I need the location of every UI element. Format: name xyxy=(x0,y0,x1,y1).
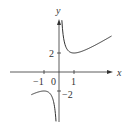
tick-label-neg1: −1 xyxy=(33,76,44,87)
tick-label-1: 1 xyxy=(71,76,76,87)
y-axis-arrow-icon xyxy=(57,19,61,25)
function-graph: x y −1 0 1 2 −2 xyxy=(0,0,133,126)
curve-right-branch xyxy=(62,20,112,53)
tick-label-neg2: −2 xyxy=(62,89,73,100)
x-axis-arrow-icon xyxy=(107,70,113,74)
tick-label-0: 0 xyxy=(51,76,56,87)
curve-left-branch xyxy=(31,91,56,121)
tick-label-2: 2 xyxy=(49,48,54,59)
y-axis-label: y xyxy=(55,5,61,16)
x-axis-label: x xyxy=(116,67,122,78)
